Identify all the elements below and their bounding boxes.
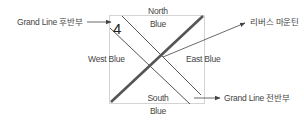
reverse-mountain-label: 리버스 마운틴 (250, 17, 299, 27)
north-blue-line2: Blue (146, 19, 170, 29)
north-blue-label: North Blue (146, 6, 170, 29)
west-blue-label: West Blue (88, 54, 125, 64)
grand-line-second-half-label: Grand Line 후반부 (17, 17, 83, 27)
north-blue-line1: North (146, 6, 170, 16)
south-blue-label: South Blue (146, 93, 170, 116)
east-blue-label: East Blue (186, 54, 221, 64)
south-blue-line2: Blue (146, 106, 170, 116)
south-blue-line1: South (146, 93, 170, 103)
grand-line-first-half-label: Grand Line 전반부 (224, 93, 290, 103)
figure-number: 4 (113, 21, 121, 36)
